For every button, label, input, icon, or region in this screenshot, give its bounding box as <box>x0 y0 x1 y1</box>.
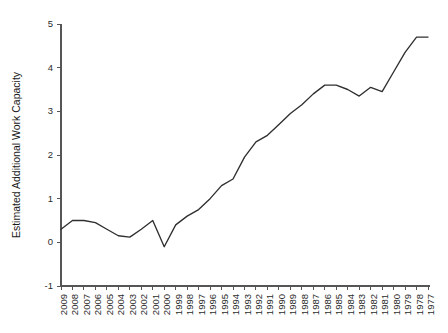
x-tick-label: 1994 <box>230 294 241 315</box>
line-chart: 012345-1 2009200820072006200520042003200… <box>0 0 448 333</box>
x-tick-label: 1990 <box>276 294 287 315</box>
x-tick-label: 1986 <box>322 294 333 315</box>
x-axis-ticks: 2009200820072006200520042003200220012000… <box>58 286 436 315</box>
y-axis-ticks: 012345-1 <box>45 18 61 291</box>
y-axis-title: Estimated Additional Work Capacity <box>10 71 22 238</box>
x-tick-label: 2003 <box>127 294 138 315</box>
y-tick-label: 4 <box>48 62 53 73</box>
x-tick-label: 1992 <box>253 294 264 315</box>
x-tick-label: 1977 <box>425 294 436 315</box>
x-tick-label: 1993 <box>242 294 253 315</box>
x-tick-label: 1984 <box>345 294 356 315</box>
x-tick-label: 1978 <box>414 294 425 315</box>
y-tick-label: 0 <box>48 236 53 247</box>
x-tick-label: 1979 <box>402 294 413 315</box>
x-tick-label: 1981 <box>379 294 390 315</box>
x-tick-label: 1985 <box>333 294 344 315</box>
x-tick-label: 2009 <box>58 294 69 315</box>
y-tick-label: 1 <box>48 193 53 204</box>
x-tick-label: 1989 <box>287 294 298 315</box>
y-tick-label: 2 <box>48 149 53 160</box>
x-tick-label: 1996 <box>207 294 218 315</box>
x-tick-label: 1995 <box>219 294 230 315</box>
x-tick-label: 1997 <box>196 294 207 315</box>
x-tick-label: 2007 <box>81 294 92 315</box>
x-tick-label: 2006 <box>92 294 103 315</box>
x-tick-label: 2001 <box>150 294 161 315</box>
x-tick-label: 1999 <box>173 294 184 315</box>
x-tick-label: 2005 <box>104 294 115 315</box>
x-tick-label: 2004 <box>115 294 126 315</box>
x-tick-label: 1998 <box>184 294 195 315</box>
x-tick-label: 2002 <box>138 294 149 315</box>
x-tick-label: 1980 <box>391 294 402 315</box>
x-tick-label: 1982 <box>368 294 379 315</box>
data-series-line <box>61 37 428 247</box>
x-tick-label: 1991 <box>264 294 275 315</box>
x-tick-label: 1988 <box>299 294 310 315</box>
y-tick-label: -1 <box>45 280 53 291</box>
figure-caption <box>0 324 448 333</box>
y-tick-label: 3 <box>48 105 53 116</box>
chart-figure: 012345-1 2009200820072006200520042003200… <box>0 0 448 333</box>
x-tick-label: 2000 <box>161 294 172 315</box>
x-tick-label: 2008 <box>69 294 80 315</box>
x-tick-label: 1987 <box>310 294 321 315</box>
y-tick-label: 5 <box>48 18 53 29</box>
x-tick-label: 1983 <box>356 294 367 315</box>
